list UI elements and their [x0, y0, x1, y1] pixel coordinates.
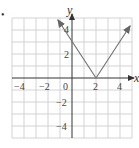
y-axis-label: y [66, 3, 73, 17]
y-tick-4: 4 [64, 24, 69, 35]
x-tick-m2: −2 [39, 81, 50, 92]
x-tick-4: 4 [117, 81, 122, 92]
bullet-marker: • [1, 9, 5, 20]
x-tick-0: 0 [63, 81, 68, 92]
y-tick-m2: −2 [56, 97, 67, 108]
graph: • y x −4 −2 0 2 4 4 2 −2 −4 [0, 0, 139, 148]
y-tick-m4: −4 [56, 121, 67, 132]
x-tick-m4: −4 [14, 81, 25, 92]
x-axis-label: x [133, 71, 139, 85]
x-tick-2: 2 [93, 81, 98, 92]
y-tick-2: 2 [64, 49, 69, 60]
